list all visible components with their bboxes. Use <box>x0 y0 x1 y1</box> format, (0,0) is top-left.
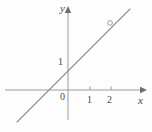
line-y-equals-x-plus-1 <box>17 9 130 122</box>
x-tick-label-1: 1 <box>87 95 92 105</box>
x-axis-label: x <box>138 95 143 106</box>
graph-figure: y x 0 1 1 2 <box>0 0 152 132</box>
y-axis-label: y <box>60 3 65 14</box>
open-circle-marker <box>108 21 113 26</box>
x-axis <box>5 87 147 94</box>
x-tick-label-2: 2 <box>107 95 112 105</box>
origin-label: 0 <box>60 92 65 102</box>
plotted-line-series <box>17 9 130 122</box>
x-axis-arrow-icon <box>140 87 147 94</box>
y-axis-arrow-icon <box>65 6 71 13</box>
y-axis <box>65 6 71 120</box>
graph-canvas <box>0 0 152 132</box>
y-tick-label-1: 1 <box>58 57 63 67</box>
